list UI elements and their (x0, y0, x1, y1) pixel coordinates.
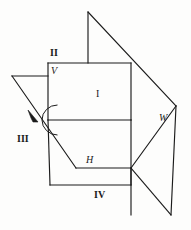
edge-w-right (171, 106, 176, 215)
edge-upper-diagonal (88, 12, 176, 106)
label-plane-w: W (159, 113, 167, 123)
edge-w-upper-diagonal (131, 106, 176, 168)
label-plane-h: H (86, 155, 93, 165)
label-plane-v: V (51, 66, 57, 76)
edge-w-lower-diagonal (131, 168, 171, 215)
label-quadrant-3: III (17, 134, 29, 144)
line-art-group (12, 12, 176, 215)
projection-planes-figure: II V I III H W IV (0, 0, 191, 230)
label-quadrant-4: IV (94, 190, 105, 200)
label-quadrant-2: II (50, 48, 58, 58)
edge-left-diagonal (12, 76, 76, 168)
label-quadrant-1: I (96, 89, 99, 99)
